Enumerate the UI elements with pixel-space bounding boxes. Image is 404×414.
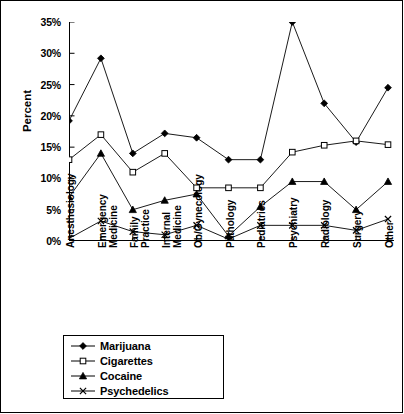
legend-item-cigarettes: Cigarettes xyxy=(70,354,223,368)
y-tick-label: 30% xyxy=(15,47,61,59)
y-tick-label: 15% xyxy=(15,141,61,153)
chart-canvas xyxy=(69,22,394,241)
legend-marker-filled-diamond xyxy=(70,340,96,352)
y-tick-label: 20% xyxy=(15,110,61,122)
y-tick-label: 0% xyxy=(15,235,61,247)
legend-item-marijuana: Marijuana xyxy=(70,339,223,353)
legend-label: Psychedelics xyxy=(100,385,169,397)
legend-item-psychedelics: Psychedelics xyxy=(70,384,223,398)
series-marijuana xyxy=(69,22,391,163)
series-psychedelics xyxy=(69,216,391,241)
series-cocaine xyxy=(69,150,392,239)
legend-label: Cigarettes xyxy=(100,355,153,367)
plot-area xyxy=(69,22,394,241)
chart-legend: MarijuanaCigarettesCocainePsychedelics xyxy=(63,335,224,399)
legend-item-cocaine: Cocaine xyxy=(70,369,223,383)
legend-marker-filled-triangle xyxy=(70,370,96,382)
chart-figure: Percent 0%5%10%15%20%25%30%35% Anesthesi… xyxy=(0,0,403,413)
y-tick-label: 35% xyxy=(15,16,61,28)
y-tick-label: 10% xyxy=(15,172,61,184)
legend-marker-cross-x xyxy=(70,385,96,397)
legend-marker-open-square xyxy=(70,355,96,367)
y-tick-label: 5% xyxy=(15,204,61,216)
legend-label: Cocaine xyxy=(100,370,142,382)
y-tick-label: 25% xyxy=(15,79,61,91)
legend-label: Marijuana xyxy=(100,340,150,352)
